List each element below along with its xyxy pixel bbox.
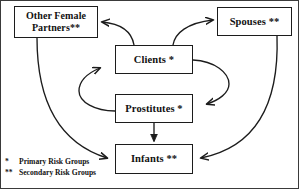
node-clients-label: Clients * [134, 54, 174, 66]
node-clients: Clients * [115, 45, 193, 74]
edge-clients-to-prostitutes [193, 60, 229, 104]
node-other-female-partners-label: Other Female Partners** [26, 10, 86, 34]
legend-mark-primary: * [5, 156, 19, 167]
legend-mark-secondary: ** [5, 167, 19, 178]
edge-clients-to-other-female-partners [102, 22, 134, 45]
edge-prostitutes-to-clients [79, 68, 115, 111]
node-prostitutes: Prostitutes * [115, 94, 193, 123]
legend-item-primary: * Primary Risk Groups [5, 156, 96, 167]
node-prostitutes-label: Prostitutes * [125, 103, 182, 115]
node-infants-label: Infants ** [131, 153, 177, 165]
edge-other-female-partners-to-infants [37, 38, 107, 158]
legend-item-secondary: ** Secondary Risk Groups [5, 167, 96, 178]
node-spouses: Spouses ** [217, 7, 292, 36]
legend: * Primary Risk Groups ** Secondary Risk … [5, 156, 96, 178]
node-infants: Infants ** [115, 144, 193, 174]
node-spouses-label: Spouses ** [230, 16, 280, 28]
edge-spouses-to-infants [201, 36, 277, 158]
node-other-female-partners: Other Female Partners** [14, 6, 98, 38]
legend-text-primary: Primary Risk Groups [19, 156, 89, 167]
legend-text-secondary: Secondary Risk Groups [19, 167, 96, 178]
edge-clients-to-spouses [173, 20, 213, 45]
risk-group-diagram: Other Female Partners** Spouses ** Clien… [0, 0, 299, 189]
